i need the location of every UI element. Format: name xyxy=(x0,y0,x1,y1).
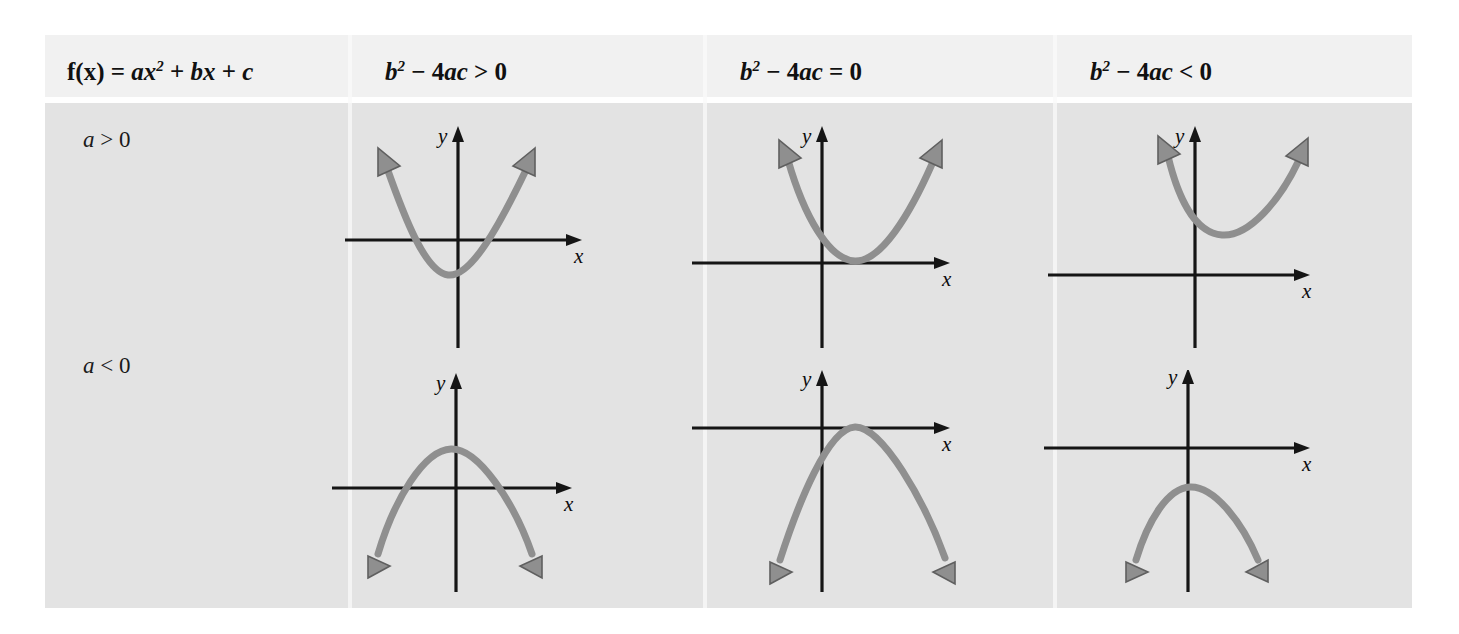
row-relation-1: > 0 xyxy=(95,127,131,152)
graph-a-negative-disc-zero: y x xyxy=(680,370,980,600)
disc-relation-1: > 0 xyxy=(468,58,507,85)
parabola-curve xyxy=(788,160,932,261)
row-label-a-negative: a < 0 xyxy=(83,353,130,379)
disc-b-1: b xyxy=(385,58,398,85)
parabola-curve xyxy=(1136,487,1258,560)
graph-a-positive-disc-positive: y x xyxy=(330,120,630,350)
y-axis-arrowhead xyxy=(450,373,462,389)
graph-a-positive-disc-zero: y x xyxy=(680,120,980,350)
curve-arrowhead-left xyxy=(378,148,400,176)
formula-plus-2: + xyxy=(215,58,242,85)
curve-arrowhead-left xyxy=(1126,562,1148,582)
disc-b-3: b xyxy=(1090,58,1103,85)
x-axis-label: x xyxy=(1302,279,1311,304)
y-axis-label: y xyxy=(1175,124,1184,149)
y-axis-arrowhead xyxy=(816,370,828,386)
formula-exponent: 2 xyxy=(156,58,164,74)
x-axis-label: x xyxy=(574,244,583,269)
disc-ac-3: ac xyxy=(1149,58,1173,85)
formula-a: a xyxy=(131,58,144,85)
disc-b-2: b xyxy=(740,58,753,85)
curve-arrowhead-right xyxy=(920,140,942,168)
y-axis-arrowhead xyxy=(816,126,828,142)
header-discriminant-zero: b2 − 4ac = 0 xyxy=(740,35,862,97)
y-axis-label: y xyxy=(802,124,811,149)
graph-a-positive-disc-negative: y x xyxy=(1030,120,1330,350)
curve-arrowhead-right xyxy=(933,562,955,584)
curve-arrowhead-left xyxy=(770,562,792,584)
disc-exponent-3: 2 xyxy=(1103,58,1111,74)
disc-ac-2: ac xyxy=(799,58,823,85)
y-axis-arrowhead xyxy=(1182,370,1194,384)
curve-arrowhead-right xyxy=(513,148,535,176)
disc-minus-4-1: − 4 xyxy=(405,58,444,85)
curve-arrowhead-right xyxy=(1286,138,1308,166)
y-axis-arrowhead xyxy=(1189,126,1201,142)
row-a-2: a xyxy=(83,353,95,378)
disc-exponent-2: 2 xyxy=(753,58,761,74)
curve-arrowhead-left xyxy=(368,556,390,578)
formula-x: x xyxy=(144,58,157,85)
header-discriminant-positive: b2 − 4ac > 0 xyxy=(385,35,507,97)
y-axis-label: y xyxy=(438,124,447,149)
y-axis-label: y xyxy=(1168,365,1177,390)
axes-group xyxy=(332,382,560,592)
formula-x2: x xyxy=(203,58,216,85)
axes-group xyxy=(692,135,938,348)
curve-arrowhead-left xyxy=(779,140,801,168)
row-a-1: a xyxy=(83,127,95,152)
x-axis-label: x xyxy=(942,267,951,292)
axes-group xyxy=(692,378,938,592)
disc-exponent-1: 2 xyxy=(398,58,406,74)
disc-ac-1: ac xyxy=(444,58,468,85)
y-axis-label: y xyxy=(436,371,445,396)
parabola-curve xyxy=(1168,156,1298,235)
x-axis-label: x xyxy=(1302,452,1311,477)
graph-a-negative-disc-negative: y x xyxy=(1030,370,1330,600)
formula-plus-1: + xyxy=(164,58,191,85)
row-relation-2: < 0 xyxy=(95,353,131,378)
formula-c: c xyxy=(242,58,253,85)
disc-minus-4-3: − 4 xyxy=(1110,58,1149,85)
y-axis-arrowhead xyxy=(452,126,464,142)
x-axis-label: x xyxy=(564,492,573,517)
formula-b: b xyxy=(190,58,203,85)
y-axis-label: y xyxy=(802,367,811,392)
parabola-curve xyxy=(780,427,945,560)
row-label-a-positive: a > 0 xyxy=(83,127,130,153)
x-axis-label: x xyxy=(942,432,951,457)
discriminant-figure: f(x) = ax2 + bx + c b2 − 4ac > 0 b2 − 4a… xyxy=(45,35,1412,608)
graph-a-negative-disc-positive: y x xyxy=(320,370,620,600)
disc-minus-4-2: − 4 xyxy=(760,58,799,85)
header-discriminant-negative: b2 − 4ac < 0 xyxy=(1090,35,1212,97)
header-corner-formula: f(x) = ax2 + bx + c xyxy=(67,35,253,97)
curve-arrowhead-right xyxy=(520,556,542,578)
formula-fx: f(x) = xyxy=(67,58,131,85)
disc-relation-2: = 0 xyxy=(823,58,862,85)
disc-relation-3: < 0 xyxy=(1173,58,1212,85)
